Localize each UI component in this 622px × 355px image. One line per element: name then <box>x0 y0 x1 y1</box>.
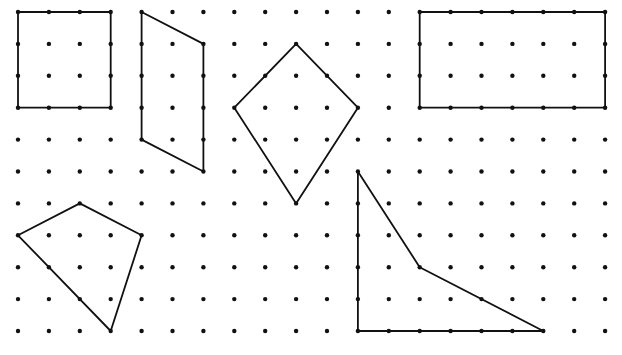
grid-dot <box>47 42 51 46</box>
grid-dot <box>325 233 329 237</box>
grid-dot <box>325 329 329 333</box>
grid-dot <box>263 329 267 333</box>
grid-dot <box>510 74 514 78</box>
grid-dot <box>139 233 143 237</box>
grid-dot <box>294 74 298 78</box>
grid-dot <box>47 265 51 269</box>
grid-dot <box>294 297 298 301</box>
shape-concave-quadrilateral <box>358 172 543 332</box>
grid-dot <box>356 169 360 173</box>
grid-dot <box>448 297 452 301</box>
grid-dot <box>325 137 329 141</box>
grid-dot <box>139 329 143 333</box>
grid-dot <box>232 42 236 46</box>
grid-dot <box>418 265 422 269</box>
grid-dot <box>603 10 607 14</box>
grid-dot <box>16 137 20 141</box>
grid-dot <box>294 106 298 110</box>
grid-dot <box>232 233 236 237</box>
grid-dot <box>387 10 391 14</box>
grid-dot <box>78 201 82 205</box>
grid-dot <box>325 297 329 301</box>
grid-dot <box>387 233 391 237</box>
grid-dot <box>16 169 20 173</box>
grid-dot <box>170 42 174 46</box>
grid-dot <box>78 265 82 269</box>
grid-dot <box>201 10 205 14</box>
grid-dot <box>356 137 360 141</box>
grid-dot <box>418 329 422 333</box>
grid-dot <box>418 10 422 14</box>
grid-dot <box>109 233 113 237</box>
grid-dot <box>294 233 298 237</box>
grid-dot <box>572 329 576 333</box>
grid-dot <box>170 169 174 173</box>
grid-dot <box>139 10 143 14</box>
grid-dot <box>139 169 143 173</box>
grid-dot <box>387 42 391 46</box>
grid-dot <box>109 169 113 173</box>
grid-dot <box>170 10 174 14</box>
grid-dot <box>603 201 607 205</box>
grid-dot <box>139 42 143 46</box>
grid-dot <box>356 297 360 301</box>
grid-dot <box>201 137 205 141</box>
grid-dot <box>510 106 514 110</box>
grid-dot <box>510 201 514 205</box>
grid-dot <box>510 297 514 301</box>
grid-dot <box>387 265 391 269</box>
grid-dot <box>201 42 205 46</box>
grid-dot <box>263 106 267 110</box>
grid-dot <box>139 137 143 141</box>
grid-dot <box>572 201 576 205</box>
grid-dot <box>232 10 236 14</box>
grid-dot <box>78 169 82 173</box>
grid-dot <box>78 42 82 46</box>
grid-dot <box>572 233 576 237</box>
grid-dot <box>479 137 483 141</box>
grid-dot <box>109 297 113 301</box>
grid-dot <box>541 137 545 141</box>
grid-dot <box>170 201 174 205</box>
grid-dot <box>294 137 298 141</box>
grid-dot <box>418 297 422 301</box>
grid-dot <box>170 106 174 110</box>
grid-dot <box>387 201 391 205</box>
grid-dot <box>541 297 545 301</box>
grid-dot <box>263 265 267 269</box>
grid-dot <box>294 329 298 333</box>
grid-dot <box>78 10 82 14</box>
grid-dot <box>541 201 545 205</box>
grid-dot <box>232 201 236 205</box>
grid-dot <box>109 201 113 205</box>
grid-dot <box>510 137 514 141</box>
grid-dot <box>572 169 576 173</box>
grid-dot <box>448 137 452 141</box>
grid-dot <box>325 74 329 78</box>
grid-dot <box>448 329 452 333</box>
grid-dot <box>232 106 236 110</box>
grid-dot <box>572 42 576 46</box>
grid-dot <box>294 265 298 269</box>
grid-dot <box>139 74 143 78</box>
grid-dot <box>201 265 205 269</box>
grid-dot <box>356 265 360 269</box>
grid-dot <box>510 42 514 46</box>
grid-dot <box>109 106 113 110</box>
grid-dot <box>541 233 545 237</box>
diagram-svg <box>0 0 622 355</box>
grid-dot <box>232 169 236 173</box>
grid-dot <box>201 201 205 205</box>
grid-dot <box>510 169 514 173</box>
grid-dot <box>603 137 607 141</box>
grid-dot <box>139 265 143 269</box>
grid-dot <box>170 233 174 237</box>
grid-dot <box>356 74 360 78</box>
grid-dot <box>78 74 82 78</box>
grid-dot <box>47 10 51 14</box>
grid-dot <box>418 233 422 237</box>
grid-dot <box>78 106 82 110</box>
grid-dot <box>78 297 82 301</box>
grid-dot <box>479 297 483 301</box>
grid-dot <box>47 106 51 110</box>
